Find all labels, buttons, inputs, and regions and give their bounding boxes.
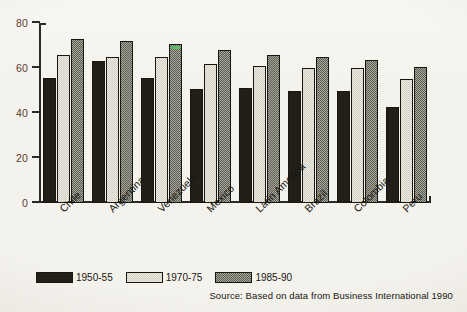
bar — [218, 50, 231, 203]
legend-label-1970-75: 1970-75 — [166, 272, 203, 283]
bar-group — [92, 23, 133, 203]
y-tick-80 — [32, 21, 40, 23]
y-tick-20 — [32, 156, 40, 158]
bar — [302, 68, 315, 203]
y-tick-label-60: 60 — [16, 62, 28, 74]
legend-label-1950-55: 1950-55 — [76, 272, 113, 283]
bar — [155, 57, 168, 203]
y-tick-label-0: 0 — [22, 197, 28, 209]
y-tick-40 — [32, 111, 40, 113]
bar — [204, 64, 217, 204]
chart-page: 020406080 ChileArgentinaVenezuelaMexicoL… — [0, 0, 467, 312]
bar — [120, 41, 133, 203]
plot-area: 020406080 — [39, 23, 431, 203]
legend-item-1950-55: 1950-55 — [36, 272, 126, 283]
bar — [386, 107, 399, 203]
y-axis — [39, 23, 41, 203]
bar-group — [386, 23, 427, 203]
bar-group — [239, 23, 280, 203]
y-tick-label-80: 80 — [16, 17, 28, 29]
chart-legend: 1950-55 1970-75 1985-90 — [36, 272, 305, 283]
bar-group — [43, 23, 84, 203]
legend-swatch-1985-90 — [215, 272, 252, 283]
legend-item-1985-90: 1985-90 — [215, 272, 305, 283]
bar — [316, 57, 329, 203]
bar — [337, 91, 350, 204]
category-labels: ChileArgentinaVenezuelaMexicoLatin Ameri… — [39, 206, 431, 266]
source-note: Source: Based on data from Business Inte… — [0, 290, 453, 301]
legend-swatch-1970-75 — [126, 272, 163, 283]
bar — [288, 91, 301, 204]
bar — [400, 79, 413, 203]
bar — [414, 67, 427, 203]
bar — [71, 39, 84, 203]
x-axis-right-cap — [429, 196, 431, 203]
legend-swatch-1950-55 — [36, 272, 73, 283]
y-tick-60 — [32, 66, 40, 68]
y-tick-0 — [32, 201, 40, 203]
bar — [106, 57, 119, 203]
y-tick-label-20: 20 — [16, 152, 28, 164]
bar-group — [337, 23, 378, 203]
highlight-marker — [171, 46, 180, 49]
legend-item-1970-75: 1970-75 — [126, 272, 216, 283]
legend-label-1985-90: 1985-90 — [255, 272, 292, 283]
bar — [43, 78, 56, 203]
y-tick-label-40: 40 — [16, 107, 28, 119]
bar — [253, 66, 266, 203]
bar — [351, 68, 364, 203]
bar-group — [141, 23, 182, 203]
bar — [239, 88, 252, 203]
bar — [92, 61, 105, 203]
bar — [57, 55, 70, 204]
